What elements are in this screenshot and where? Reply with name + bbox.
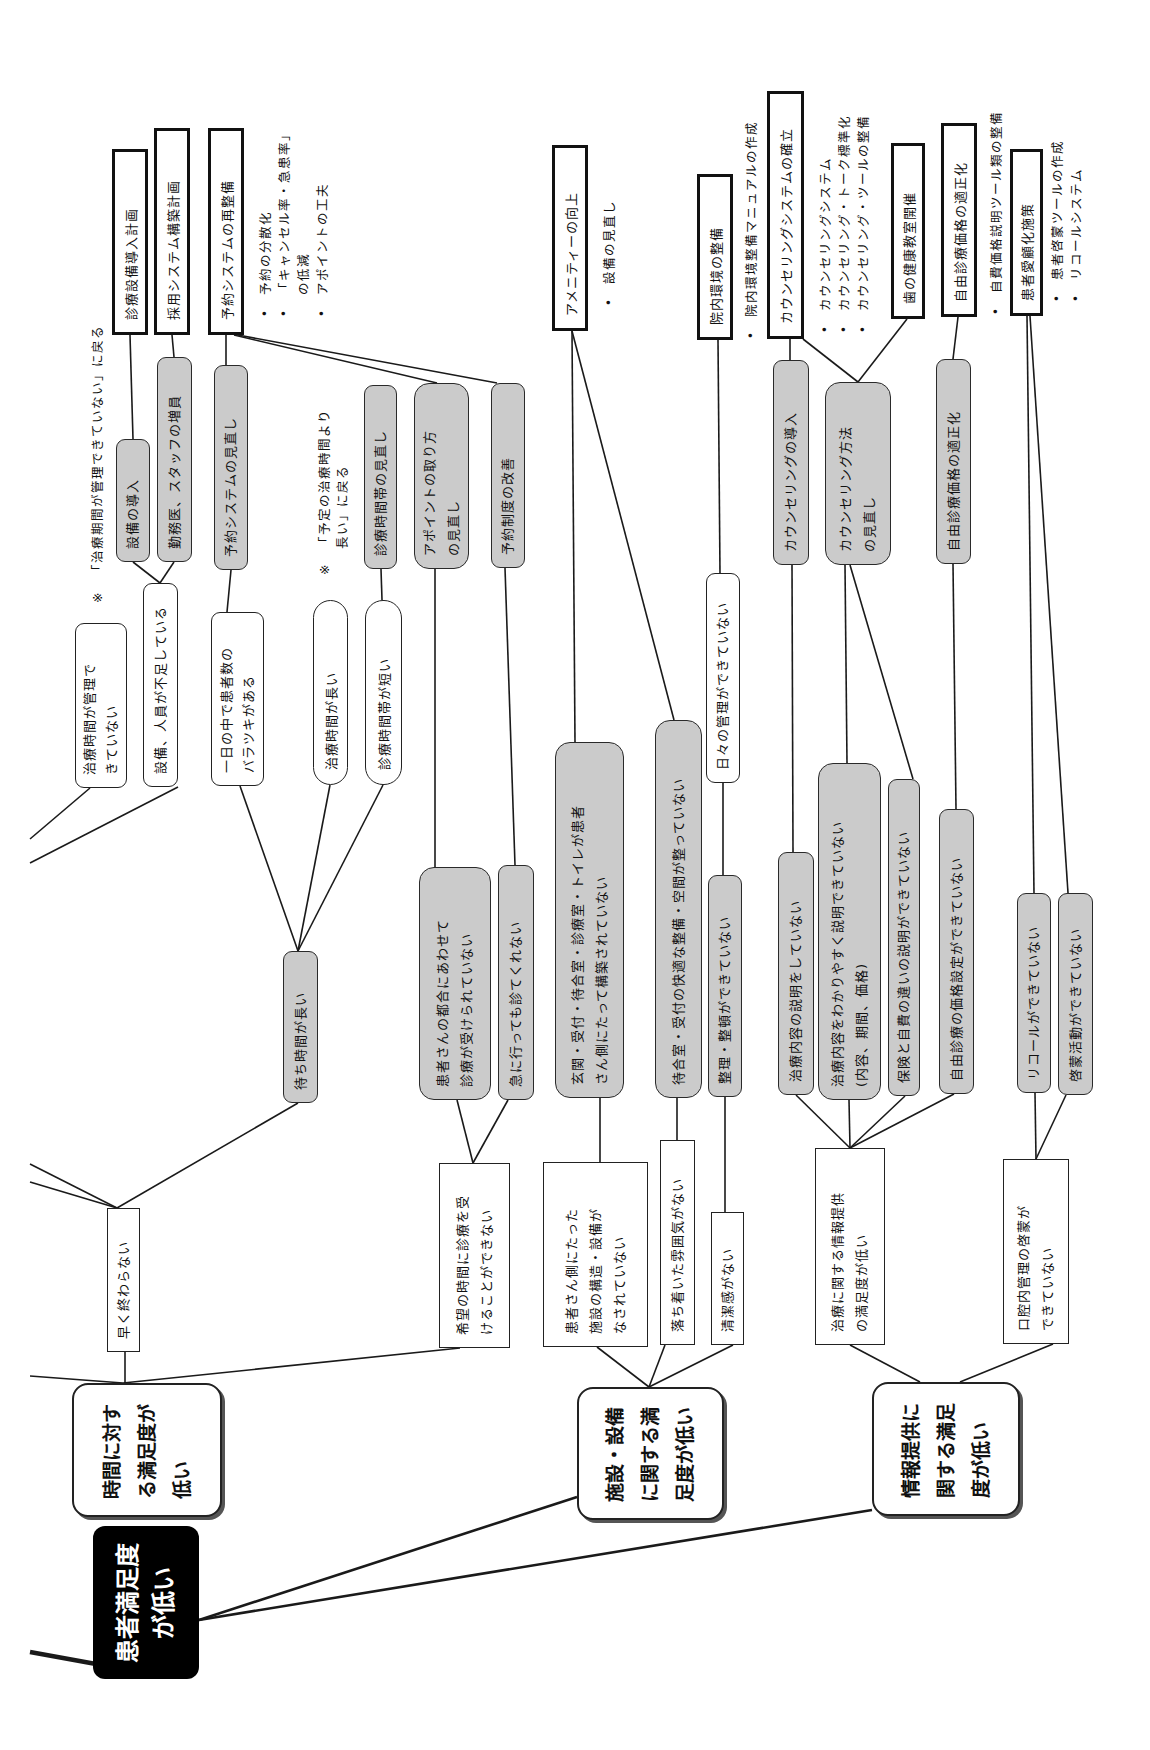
plan-patient-loyalty: 患者愛顧化施策 <box>1010 149 1043 316</box>
plan-label: アメニティーの向上 <box>561 192 580 316</box>
connector <box>381 569 382 600</box>
problem-label: 患者さん側にたった 施設の構造・設備が なされていない <box>560 1208 632 1334</box>
connector-trunk <box>30 1652 96 1664</box>
solution-label: 勤務医、スタッフの増員 <box>163 395 187 549</box>
bullet-text: 予約の分散化 <box>256 211 275 295</box>
connector <box>227 570 231 612</box>
solution-hours-review: 診療時間帯の見直し <box>364 385 397 569</box>
connector <box>457 1100 473 1163</box>
connector <box>199 1510 872 1620</box>
issue-insurance-vs-private: 保険と自費の違いの説明ができていない <box>888 779 920 1096</box>
bullet-icon: • <box>835 311 854 333</box>
bullet-icon: • <box>987 293 1006 315</box>
solution-label: 予約システムの見直し <box>219 417 243 557</box>
connector <box>30 788 90 839</box>
solution-label: 予約制度の改善 <box>496 457 520 555</box>
cause-patient-count-variance: 一日の中で患者数の バラツキがある <box>211 612 264 786</box>
root-node: 患者満足度 が低い <box>93 1526 199 1679</box>
bullet-icon: • <box>816 311 835 333</box>
note-text: 「予定の治療時間より 長い」に戻る <box>316 409 352 549</box>
connector <box>572 331 575 742</box>
issue-label: 玄関・受付・待合室・診療室・トイレが患者 さん側にたって構築されていない <box>566 805 614 1085</box>
plan-dental-health-class: 歯の健康教室開催 <box>891 143 925 319</box>
bullet-icon: • <box>1067 280 1086 302</box>
bullet-text: 「キャンセル率・急患率」 の低減 <box>275 127 313 295</box>
bullet-icon: • <box>854 311 873 333</box>
cause-label: 治療時間が管理で きていない <box>79 663 123 775</box>
problem-oral-care-education: 口腔内管理の啓蒙が できていない <box>1003 1159 1069 1344</box>
connector <box>30 787 178 863</box>
solution-label: 自由診療価格の適正化 <box>942 411 966 551</box>
connector <box>505 568 515 865</box>
note-text: 「治療期間が管理できていない」に戻る <box>89 325 107 577</box>
note-return-treatment-period: ※ 「治療期間が管理できていない」に戻る <box>89 325 107 603</box>
connector <box>1027 316 1034 893</box>
plan-booking-system-bullets: •予約の分散化 •「キャンセル率・急患率」 の低減 •アポイントの工夫 <box>256 127 332 317</box>
issue-label: 待ち時間が長い <box>289 992 313 1090</box>
solution-counseling-method: カウンセリング方法 の見直し <box>825 382 891 565</box>
bullet-icon: • <box>275 295 294 317</box>
connector <box>953 564 956 809</box>
reference-mark-icon: ※ <box>316 549 352 575</box>
plan-label: 歯の健康教室開催 <box>899 192 918 304</box>
connector <box>850 1094 954 1148</box>
bullet-icon: • <box>1048 280 1067 302</box>
issue-label: 患者さんの都合にあわせて 診療が受けられていない <box>431 919 479 1087</box>
issue-label: 保険と自費の違いの説明ができていない <box>892 831 916 1083</box>
bullet-item: •カウンセリング・トーク標準化 <box>835 115 854 333</box>
plan-label: 診療設備導入計画 <box>121 208 140 320</box>
plan-label: カウンセリングシステムの確立 <box>776 128 795 324</box>
plan-clinic-environment: 院内環境の整備 <box>697 174 733 340</box>
issue-label: リコールができていない <box>1022 926 1046 1080</box>
connector <box>960 1344 1053 1382</box>
category-info-satisfaction: 情報提供に 関する満足 度が低い <box>872 1382 1020 1516</box>
solution-label: 設備の導入 <box>121 479 145 549</box>
connector <box>130 335 133 439</box>
problem-label: 清潔感がない <box>716 1248 740 1332</box>
solution-equipment-introduction: 設備の導入 <box>116 439 150 562</box>
solution-private-price-optimization: 自由診療価格の適正化 <box>936 359 971 564</box>
connector <box>172 335 174 357</box>
issue-waiting-room: 待合室・受付の快適な整備・空間が整っていない <box>655 720 702 1098</box>
issue-no-walk-in: 急に行っても診てくれない <box>498 865 534 1100</box>
issue-label: 自由診療の価格設定ができていない <box>945 857 969 1081</box>
plan-booking-system: 予約システムの再整備 <box>208 128 244 335</box>
cause-long-treatment: 治療時間が長い <box>313 600 348 785</box>
root-label: 患者満足度 が低い <box>110 1543 182 1663</box>
bullet-item: •「キャンセル率・急患率」 の低減 <box>275 127 313 317</box>
bullet-text: 院内環境整備マニュアルの作成 <box>742 121 761 317</box>
problem-preferred-time: 希望の時間に診療を受 けることができない <box>439 1163 510 1348</box>
bullet-item: •カウンセリング・ツールの整備 <box>854 115 873 333</box>
cause-equipment-staff-shortage: 設備、人員が不足している <box>143 583 178 787</box>
plan-recruitment: 採用システム構築計画 <box>154 128 190 335</box>
problem-not-finished-quickly: 早く終わらない <box>107 1208 140 1352</box>
note-return-planned-time: ※ 「予定の治療時間より 長い」に戻る <box>316 409 352 575</box>
connector <box>1030 316 1068 893</box>
cause-daily-management: 日々の管理ができていない <box>706 573 740 783</box>
connector <box>649 1345 733 1387</box>
problem-label: 口腔内管理の啓蒙が できていない <box>1012 1205 1060 1331</box>
issue-no-explanation: 治療内容の説明をしていない <box>778 852 814 1095</box>
problem-label: 落ち着いた雰囲気がない <box>666 1178 690 1332</box>
bullet-text: カウンセリングシステム <box>816 157 835 311</box>
problem-treatment-info: 治療に関する情報提供 の満足度が低い <box>815 1148 885 1345</box>
solution-counseling-introduction: カウンセリングの導入 <box>773 360 809 565</box>
connector <box>123 1348 460 1383</box>
bullet-item: •予約の分散化 <box>256 127 275 317</box>
plan-private-price-bullets: •自費価格説明ツール類の整備 <box>987 111 1006 315</box>
bullet-text: 設備の見直し <box>600 200 619 284</box>
connector <box>238 335 497 383</box>
bullet-text: リコールシステム <box>1067 168 1086 280</box>
connector <box>473 1100 508 1163</box>
issue-education-activity: 啓蒙活動ができていない <box>1058 893 1093 1095</box>
issue-label: 啓蒙活動ができていない <box>1064 928 1088 1082</box>
bullet-item: •リコールシステム <box>1067 140 1086 302</box>
cause-label: 設備、人員が不足している <box>150 606 172 774</box>
bullet-item: •院内環境整備マニュアルの作成 <box>742 121 761 339</box>
category-label: 時間に対す る満足度が 低い <box>95 1404 200 1499</box>
connector <box>597 1347 649 1387</box>
problem-label: 早く終わらない <box>112 1241 136 1339</box>
plan-label: 採用システム構築計画 <box>163 180 182 320</box>
plan-patient-loyalty-bullets: •患者啓蒙ツールの作成 •リコールシステム <box>1048 140 1086 302</box>
issue-label: 治療内容をわかりやすく説明できていない (内容、期間、価格) <box>826 821 874 1087</box>
